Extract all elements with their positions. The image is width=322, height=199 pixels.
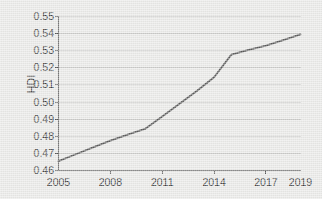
x-tick-label: 2017 [254, 177, 277, 188]
gridlines [59, 17, 301, 154]
plot-area [0, 0, 322, 199]
data-series-hdi [59, 34, 301, 161]
x-tick-label: 2014 [202, 177, 225, 188]
x-tick-label: 2011 [151, 177, 174, 188]
x-tick-label: 2008 [99, 177, 122, 188]
x-tick-label: 2019 [289, 177, 312, 188]
hdi-trend-line [59, 34, 301, 161]
x-tick-label: 2005 [47, 177, 70, 188]
hdi-line-chart: HDI 0.460.470.480.490.500.510.520.530.54… [0, 0, 322, 199]
